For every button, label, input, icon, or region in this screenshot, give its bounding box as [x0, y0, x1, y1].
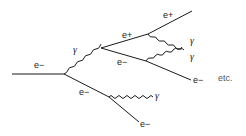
photon-wavy-lower — [109, 96, 153, 99]
label-photon-upper-2: γ — [190, 52, 194, 62]
label-photon-upper-1: γ — [190, 36, 194, 46]
label-positron-2: e+ — [163, 11, 173, 20]
photon-wavy-upper-1 — [148, 34, 184, 50]
label-incoming-electron: e− — [34, 61, 44, 70]
electron-line-right — [146, 61, 191, 80]
label-electron-right: e− — [193, 76, 203, 85]
label-first-photon: γ — [73, 45, 77, 55]
label-electron-pair: e− — [117, 58, 127, 67]
label-photon-lower: γ — [155, 91, 159, 101]
label-electron-bottom: e− — [140, 120, 150, 129]
electron-line-bottom — [109, 97, 139, 122]
label-etc: etc. — [218, 74, 233, 83]
label-positron-1: e+ — [122, 31, 132, 40]
label-electron-lower: e− — [79, 88, 89, 97]
photon-wavy-first — [64, 44, 101, 74]
